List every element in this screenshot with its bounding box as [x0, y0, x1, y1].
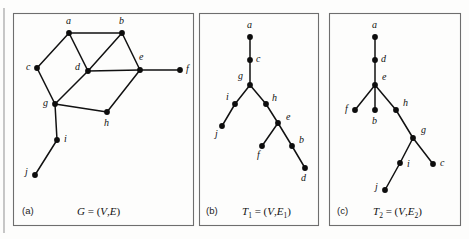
edge-h-g: [396, 110, 413, 138]
node-label-c: c: [256, 53, 261, 64]
node-c[interactable]: [430, 161, 436, 167]
nodes-b: acgijhefbd: [213, 19, 308, 183]
node-c[interactable]: [247, 57, 253, 63]
node-a[interactable]: [247, 34, 253, 40]
node-label-i: i: [64, 133, 67, 144]
panel-caption-c: T2 = (V,E2): [373, 205, 422, 220]
figure-container: abcdefghij(a)G = (V,E)acgijhefbd(b)T1 = …: [0, 0, 469, 239]
edge-d-e: [88, 70, 140, 71]
node-label-b: b: [299, 134, 304, 145]
node-i[interactable]: [397, 160, 403, 166]
node-label-d: d: [381, 53, 387, 64]
node-a[interactable]: [66, 30, 72, 36]
node-f[interactable]: [259, 143, 265, 149]
node-label-a: a: [372, 19, 377, 30]
panel-tag-b: (b): [206, 205, 218, 216]
node-label-j: j: [23, 166, 28, 177]
node-d[interactable]: [302, 165, 308, 171]
node-label-d: d: [301, 172, 307, 183]
node-g[interactable]: [247, 82, 253, 88]
node-i[interactable]: [232, 101, 238, 107]
node-label-h: h: [104, 117, 109, 128]
node-label-g: g: [43, 97, 48, 108]
node-label-c: c: [440, 157, 445, 168]
node-label-e: e: [139, 51, 144, 62]
node-label-a: a: [247, 19, 252, 30]
node-label-f: f: [257, 149, 261, 160]
node-e[interactable]: [137, 67, 143, 73]
node-label-a: a: [66, 15, 71, 26]
edge-i-j: [35, 140, 57, 175]
edge-e-f: [262, 123, 278, 146]
figure-svg: abcdefghij(a)G = (V,E)acgijhefbd(b)T1 = …: [0, 0, 469, 239]
edge-b-d: [292, 146, 305, 168]
node-label-j: j: [373, 181, 378, 192]
node-g[interactable]: [52, 101, 58, 107]
edges-c: [355, 37, 433, 190]
node-j[interactable]: [219, 123, 225, 129]
node-a[interactable]: [372, 34, 378, 40]
node-b[interactable]: [119, 30, 125, 36]
node-g[interactable]: [410, 135, 416, 141]
node-f[interactable]: [352, 107, 358, 113]
node-h[interactable]: [104, 109, 110, 115]
node-h[interactable]: [393, 107, 399, 113]
node-label-d: d: [75, 61, 81, 72]
node-label-i: i: [226, 91, 229, 102]
edge-g-i: [235, 85, 250, 104]
node-label-b: b: [119, 15, 124, 26]
edge-g-c: [413, 138, 433, 164]
node-label-h: h: [272, 92, 277, 103]
edge-e-h: [107, 70, 140, 112]
node-e[interactable]: [372, 82, 378, 88]
node-i[interactable]: [54, 137, 60, 143]
nodes-c: adefbhgcij: [345, 19, 445, 193]
node-label-c: c: [26, 61, 31, 72]
edge-e-h: [375, 85, 396, 110]
node-label-g: g: [421, 124, 426, 135]
node-f[interactable]: [177, 67, 183, 73]
panel-b: acgijhefbd(b)T1 = (V,E1): [200, 14, 319, 226]
node-label-e: e: [382, 71, 387, 82]
edge-b-d: [88, 33, 122, 71]
panels-group: abcdefghij(a)G = (V,E)acgijhefbd(b)T1 = …: [14, 14, 461, 226]
panel-tag-a: (a): [22, 205, 34, 216]
node-label-f: f: [186, 63, 190, 74]
edge-d-g: [55, 71, 88, 104]
node-label-f: f: [345, 103, 349, 114]
panel-caption-b: T1 = (V,E1): [242, 205, 291, 220]
node-d[interactable]: [85, 68, 91, 74]
node-label-i: i: [407, 158, 410, 169]
edge-e-f: [355, 85, 375, 110]
node-b[interactable]: [372, 107, 378, 113]
panel-c: adefbhgcij(c)T2 = (V,E2): [330, 14, 461, 226]
node-d[interactable]: [372, 57, 378, 63]
edge-e-b: [278, 123, 292, 146]
edge-g-h: [55, 104, 107, 112]
node-b[interactable]: [289, 143, 295, 149]
node-c[interactable]: [34, 65, 40, 71]
node-label-b: b: [372, 115, 377, 126]
node-h[interactable]: [263, 101, 269, 107]
edge-a-c: [37, 33, 69, 68]
edge-b-e: [122, 33, 140, 70]
edge-h-e: [266, 104, 278, 123]
edge-i-j: [385, 163, 400, 190]
node-label-e: e: [286, 111, 291, 122]
panel-caption-a: G = (V,E): [77, 205, 121, 218]
panel-border-b: [200, 14, 319, 226]
node-e[interactable]: [275, 120, 281, 126]
panel-border-c: [330, 14, 461, 226]
edge-i-j: [222, 104, 235, 126]
node-label-h: h: [403, 97, 408, 108]
node-j[interactable]: [32, 172, 38, 178]
edge-g-i: [55, 104, 57, 140]
panel-a: abcdefghij(a)G = (V,E): [14, 14, 194, 226]
node-j[interactable]: [382, 187, 388, 193]
panel-tag-c: (c): [337, 205, 348, 216]
edge-g-h: [250, 85, 266, 104]
node-label-g: g: [238, 70, 243, 81]
node-label-j: j: [213, 128, 218, 139]
